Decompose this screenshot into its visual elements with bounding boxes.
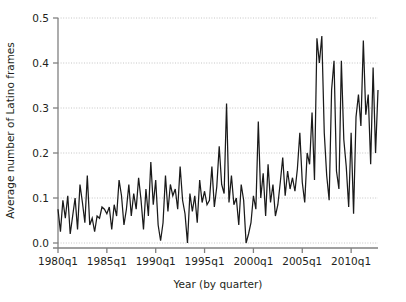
- x-tick-label: 2000q1: [233, 255, 273, 267]
- x-tick-label: 2005q1: [282, 255, 322, 267]
- y-tick-label: 0.5: [32, 12, 49, 24]
- y-tick-label: 0.3: [32, 102, 49, 114]
- x-tick-label: 1990q1: [136, 255, 176, 267]
- x-tick-label: 1980q1: [38, 255, 78, 267]
- gridlines: [58, 18, 378, 243]
- x-tick-label: 1995q1: [185, 255, 225, 267]
- y-tick-label: 0.4: [32, 57, 49, 69]
- y-tick-label: 0.0: [32, 237, 49, 249]
- series-line: [58, 36, 378, 243]
- x-axis-title: Year (by quarter): [173, 278, 263, 290]
- axis-lines: [53, 18, 378, 248]
- y-axis-title: Average number of Latino frames: [4, 42, 16, 219]
- x-tick-label: 2010q1: [331, 255, 371, 267]
- y-tick-label: 0.1: [32, 192, 49, 204]
- y-axis-ticks: [53, 18, 58, 243]
- chart-canvas: 1980q11985q11990q11995q12000q12005q12010…: [0, 0, 406, 302]
- y-tick-label: 0.2: [32, 147, 49, 159]
- x-tick-labels: 1980q11985q11990q11995q12000q12005q12010…: [38, 255, 371, 267]
- data-series-line: [58, 36, 378, 243]
- y-tick-labels: 0.00.10.20.30.40.5: [32, 12, 49, 249]
- latino-frames-line-chart: 1980q11985q11990q11995q12000q12005q12010…: [0, 0, 406, 302]
- x-axis-ticks: [58, 248, 351, 253]
- x-tick-label: 1985q1: [87, 255, 127, 267]
